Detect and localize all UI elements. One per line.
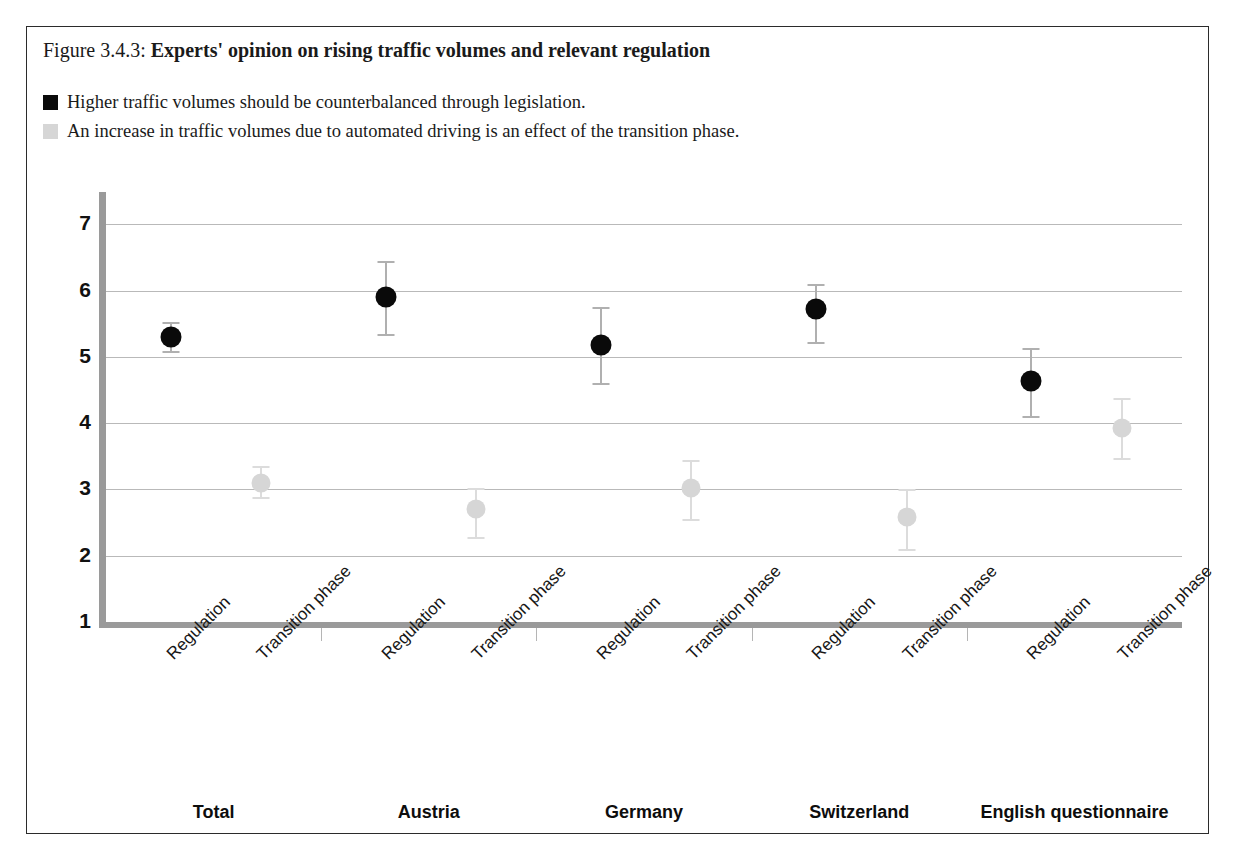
data-point[interactable]: [1112, 418, 1131, 437]
y-axis-tick-label: 1: [57, 609, 91, 633]
x-axis-category-label: Regulation: [1023, 593, 1095, 665]
error-bar-cap-lower: [592, 383, 609, 385]
error-bar-cap-lower: [808, 342, 825, 344]
legend-label-transition-phase: An increase in traffic volumes due to au…: [67, 122, 739, 141]
x-axis-group-label: Austria: [398, 802, 460, 823]
figure-title-text: Experts' opinion on rising traffic volum…: [151, 39, 710, 61]
error-bar-cap-lower: [468, 537, 485, 539]
data-point[interactable]: [160, 326, 181, 347]
x-axis-category-label: Regulation: [378, 593, 450, 665]
error-bar-cap-upper: [162, 322, 179, 324]
error-bar-cap-upper: [1113, 398, 1130, 400]
x-axis-group-label: Switzerland: [809, 802, 909, 823]
x-axis-category-label: Regulation: [808, 593, 880, 665]
y-axis-line: [99, 192, 106, 627]
x-axis-group-label: Total: [193, 802, 235, 823]
x-axis-group-label: English questionnaire: [980, 802, 1168, 823]
x-axis-group-tick: [536, 628, 537, 641]
data-point[interactable]: [682, 479, 701, 498]
y-axis-tick-label: 7: [57, 211, 91, 235]
error-bar-cap-lower: [1023, 416, 1040, 418]
error-bar-cap-upper: [468, 488, 485, 490]
legend-swatch-gray-square: [43, 124, 58, 139]
legend-item-regulation: Higher traffic volumes should be counter…: [43, 89, 739, 115]
data-point[interactable]: [375, 287, 396, 308]
plot-canvas: 1234567RegulationTransition phaseRegulat…: [27, 172, 1210, 832]
plot-area: 1234567RegulationTransition phaseRegulat…: [27, 172, 1210, 832]
x-axis-group-tick: [967, 628, 968, 641]
x-axis-category-label: Regulation: [593, 593, 665, 665]
error-bar-cap-lower: [162, 351, 179, 353]
x-axis-category-label: Transition phase: [1114, 562, 1217, 665]
legend-swatch-black-square: [43, 95, 58, 110]
error-bar-cap-lower: [377, 334, 394, 336]
gridline: [106, 224, 1182, 225]
data-point[interactable]: [590, 334, 611, 355]
x-axis-group-tick: [752, 628, 753, 641]
x-axis-category-label: Transition phase: [683, 562, 786, 665]
legend-label-regulation: Higher traffic volumes should be counter…: [67, 93, 586, 112]
data-point[interactable]: [251, 473, 270, 492]
data-point[interactable]: [806, 299, 827, 320]
error-bar-cap-upper: [683, 460, 700, 462]
error-bar-cap-upper: [592, 307, 609, 309]
error-bar-cap-upper: [252, 466, 269, 468]
y-axis-tick-label: 6: [57, 278, 91, 302]
gridline: [106, 291, 1182, 292]
error-bar-cap-lower: [252, 497, 269, 499]
figure-title: Figure 3.4.3: Experts' opinion on rising…: [43, 39, 710, 62]
gridline: [106, 423, 1182, 424]
x-axis-group-label: Germany: [605, 802, 683, 823]
data-point[interactable]: [897, 508, 916, 527]
error-bar-cap-upper: [808, 284, 825, 286]
gridline: [106, 556, 1182, 557]
error-bar-cap-upper: [1023, 348, 1040, 350]
chart-legend: Higher traffic volumes should be counter…: [43, 89, 739, 147]
x-axis-category-label: Transition phase: [899, 562, 1002, 665]
y-axis-tick-label: 4: [57, 410, 91, 434]
data-point[interactable]: [1021, 371, 1042, 392]
x-axis-category-label: Regulation: [163, 593, 235, 665]
figure-container: Figure 3.4.3: Experts' opinion on rising…: [26, 26, 1209, 834]
data-point[interactable]: [467, 500, 486, 519]
y-axis-tick-label: 2: [57, 543, 91, 567]
legend-item-transition-phase: An increase in traffic volumes due to au…: [43, 118, 739, 144]
y-axis-tick-label: 3: [57, 476, 91, 500]
y-axis-tick-label: 5: [57, 344, 91, 368]
x-axis-category-label: Transition phase: [468, 562, 571, 665]
error-bar-cap-lower: [683, 519, 700, 521]
error-bar-cap-upper: [898, 489, 915, 491]
x-axis-category-label: Transition phase: [253, 562, 356, 665]
error-bar-cap-lower: [898, 549, 915, 551]
figure-number-label: Figure 3.4.3:: [43, 39, 146, 61]
error-bar-cap-lower: [1113, 458, 1130, 460]
error-bar-cap-upper: [377, 261, 394, 263]
x-axis-group-tick: [321, 628, 322, 641]
gridline: [106, 357, 1182, 358]
